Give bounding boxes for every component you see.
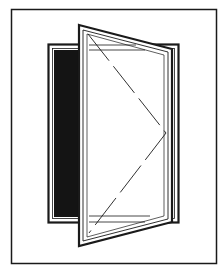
diagram-canvas	[0, 0, 224, 272]
dark-opening	[54, 50, 81, 217]
open-sash	[79, 25, 172, 246]
casement-window-diagram	[0, 0, 224, 272]
